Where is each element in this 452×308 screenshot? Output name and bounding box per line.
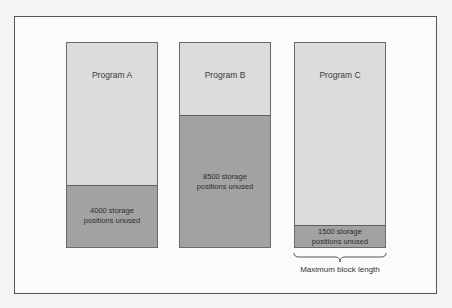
program-b-label: Program B (180, 70, 270, 80)
program-b-unused-label: 8500 storage positions unused (180, 172, 270, 191)
program-c-unused-label: 1500 storage positions unused (295, 227, 385, 246)
maximum-block-length-label: Maximum block length (280, 265, 400, 274)
program-a-unused-area: 4000 storage positions unused (67, 185, 157, 247)
program-c-unused-area: 1500 storage positions unused (295, 225, 385, 247)
program-a-used-area: Program A (67, 43, 157, 185)
program-a-label: Program A (67, 70, 157, 80)
program-c-used-area: Program C (295, 43, 385, 225)
program-a-unused-label: 4000 storage positions unused (67, 206, 157, 225)
program-c-block: Program C 1500 storage positions unused (294, 42, 386, 248)
program-b-used-area: Program B (180, 43, 270, 115)
program-b-unused-area: 8500 storage positions unused (180, 115, 270, 247)
program-a-block: Program A 4000 storage positions unused (66, 42, 158, 248)
program-b-block: Program B 8500 storage positions unused (179, 42, 271, 248)
brace-icon (293, 252, 387, 264)
program-c-label: Program C (295, 70, 385, 80)
